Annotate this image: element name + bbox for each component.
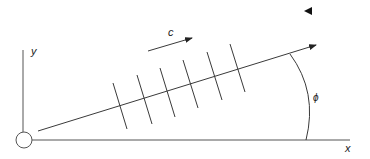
speed-label: c <box>168 26 174 38</box>
x-axis-label: x <box>344 142 351 154</box>
triangle-marker-icon <box>304 7 312 15</box>
propagation-ray-arrow <box>38 45 316 131</box>
wavefront-line <box>183 60 198 108</box>
y-axis-label: y <box>30 45 38 57</box>
speed-arrow <box>148 38 192 51</box>
wavefront-line <box>113 83 127 129</box>
angle-arc <box>290 54 310 140</box>
wavefront-line <box>207 52 222 100</box>
wave-diagram: y x c ϕ <box>0 0 370 159</box>
angle-label: ϕ <box>313 92 319 103</box>
origin-circle <box>16 132 32 148</box>
wavefronts <box>113 44 245 129</box>
